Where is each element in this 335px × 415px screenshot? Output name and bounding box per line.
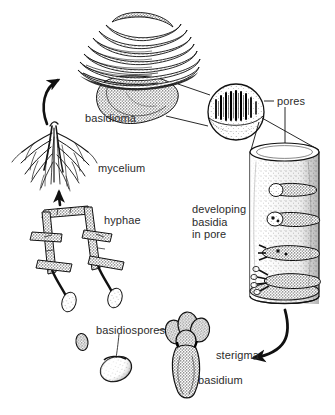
cylinder-to-basidium-arrow [254,310,288,358]
mycelium-to-basidioma-arrow [44,80,58,124]
basidiospore-small [75,333,89,352]
pore-cylinder-illustration [250,143,320,304]
label-basidiospores: basidiospores [96,324,165,337]
label-basidium: basidium [198,374,243,387]
hyphae-to-mycelium-arrow [59,192,60,205]
label-mycelium: mycelium [98,162,145,175]
basidioma-illustration [78,12,200,123]
diagram-artwork [0,0,335,415]
label-hyphae: hyphae [104,214,141,227]
mycelium-illustration [12,122,97,191]
hypha-spore-right [106,286,125,309]
hypha-spore-left [60,290,79,313]
label-developing-basidia-in-pore: developing basidia in pore [192,203,246,241]
label-pores: pores [277,95,305,108]
pore-magnifier-inset [208,84,264,140]
basidiomycete-life-cycle-figure: basidioma mycelium hyphae pores developi… [0,0,335,415]
label-basidioma: basidioma [85,112,136,125]
label-sterigma: sterigma [216,349,259,362]
